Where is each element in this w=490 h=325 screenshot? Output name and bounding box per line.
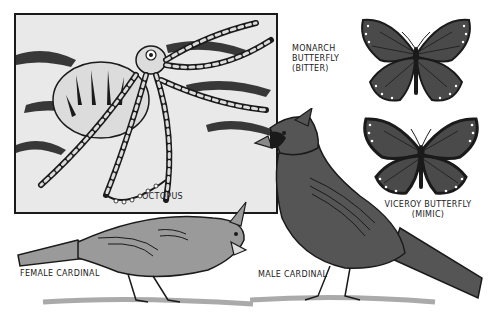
- monarch-label: MONARCH BUTTERFLY (BITTER): [292, 44, 339, 74]
- male-cardinal-label: MALE CARDINAL: [258, 270, 327, 280]
- monarch-label-line-3: (BITTER): [292, 64, 339, 74]
- octopus-panel: OCTOPUS: [14, 13, 278, 214]
- monarch-label-line-2: BUTTERFLY: [292, 54, 339, 64]
- monarch-label-line-1: MONARCH: [292, 44, 339, 54]
- illustration-canvas: OCTOPUS MONARCH BUTTERFLY (BITTER): [0, 0, 490, 325]
- female-cardinal-illustration: [8, 200, 253, 312]
- octopus-illustration: [16, 15, 276, 212]
- monarch-butterfly-illustration: [360, 12, 472, 104]
- female-cardinal-label: FEMALE CARDINAL: [20, 269, 100, 279]
